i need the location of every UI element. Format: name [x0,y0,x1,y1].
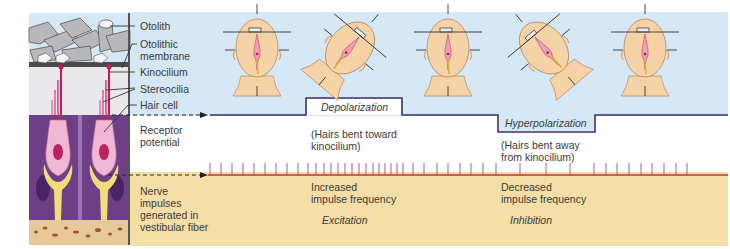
label-nerve-1: Nerve [140,185,168,197]
label-receptor-1: Receptor [140,124,183,136]
label-kinocilium: Kinocilium [140,66,188,78]
head-4-tilted-away [490,0,601,107]
head-5-upright [611,4,679,96]
arrowhead-nerve [200,172,208,178]
label-nerve-4: vestibular fiber [140,221,208,233]
hyperpolarization-note-1: (Hairs bent away [501,139,580,151]
inhibition-label: Inhibition [510,214,552,226]
label-otolith: Otolith [140,20,170,32]
label-stereocilia: Stereocilia [140,83,189,95]
receptor-potential-trace [210,98,728,132]
arrowhead-receptor [200,112,208,118]
decreased-freq-2: impulse frequency [501,193,586,205]
diagram-graphics [0,0,730,249]
decreased-freq-1: Decreased [501,181,552,193]
label-hair-cell: Hair cell [140,99,178,111]
depolarization-note-2: kinocilium) [311,140,361,152]
head-2-tilted-toward [293,0,404,107]
head-1-upright [223,4,291,96]
label-receptor-2: potential [140,136,180,148]
label-nerve-2: impulses [140,197,181,209]
increased-freq-1: Increased [311,181,357,193]
hyperpolarization-box-label: Hyperpolarization [505,117,587,129]
depolarization-note-1: (Hairs bent toward [311,128,397,140]
label-otolithic-membrane-1: Otolithic [140,38,178,50]
increased-freq-2: impulse frequency [311,193,396,205]
label-otolithic-membrane-2: membrane [140,50,190,62]
hair-cell-illustration [29,13,130,245]
spike-train [210,163,687,175]
excitation-label: Excitation [322,214,368,226]
label-nerve-3: generated in [140,209,198,221]
depolarization-box-label: Depolarization [321,101,388,113]
head-3-upright [414,4,482,96]
hyperpolarization-note-2: from kinocilium) [501,151,575,163]
